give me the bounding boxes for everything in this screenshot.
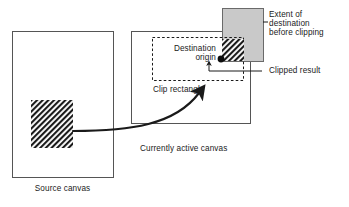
extent-label-line3: before clipping	[269, 28, 324, 38]
destination-origin-label-line2: origin	[158, 53, 216, 63]
source-canvas-label: Source canvas	[12, 184, 113, 194]
clipped-result-label: Clipped result	[269, 66, 320, 76]
clipped-result-leader-line	[209, 64, 262, 71]
currently-active-canvas-label: Currently active canvas	[140, 144, 227, 154]
clip-rectangle-label: Clip rectangle	[153, 85, 204, 95]
clipped-result-hatch-rect	[222, 39, 244, 61]
source-hatch-rect	[31, 100, 73, 148]
destination-origin-dot	[218, 56, 225, 63]
diagram-canvas: Source canvas Destination origin Clip re…	[0, 0, 349, 207]
